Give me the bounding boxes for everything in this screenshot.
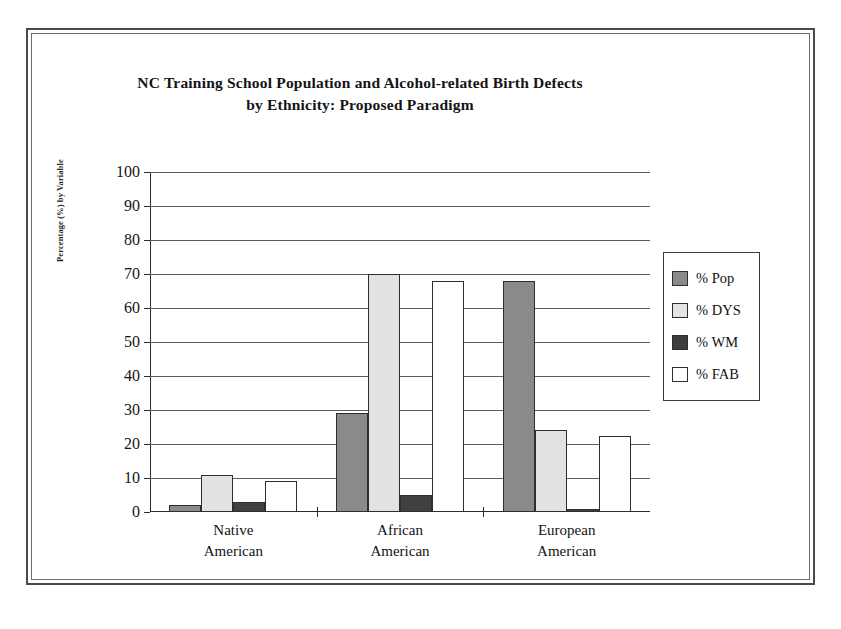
y-tick-label-100: 100 — [100, 163, 140, 181]
bar-dys-2 — [535, 430, 567, 512]
x-category-line1: Native — [213, 522, 253, 538]
y-axis-title: Percentage (%) by Variable — [55, 72, 65, 262]
y-tick-label-10: 10 — [100, 469, 140, 487]
category-separator-1 — [317, 507, 318, 517]
legend-item-fab[interactable]: % FAB — [672, 358, 752, 390]
legend-label-fab: % FAB — [696, 366, 739, 383]
bar-group-container — [150, 172, 650, 512]
bar-fab-0 — [265, 481, 297, 512]
legend-label-dys: % DYS — [696, 302, 741, 319]
legend-swatch-dys-icon — [672, 303, 688, 318]
bar-dys-0 — [201, 475, 233, 512]
bar-pop-0 — [169, 505, 201, 512]
legend-swatch-pop-icon — [672, 271, 688, 286]
legend-swatch-fab-icon — [672, 367, 688, 382]
y-tick-0 — [144, 512, 150, 513]
y-tick-label-30: 30 — [100, 401, 140, 419]
x-category-line1: African — [377, 522, 423, 538]
bar-wm-0 — [233, 502, 265, 512]
legend-item-dys[interactable]: % DYS — [672, 294, 752, 326]
x-category-line1: European — [538, 522, 595, 538]
legend-swatch-wm-icon — [672, 335, 688, 350]
bar-fab-1 — [432, 281, 464, 512]
y-tick-label-0: 0 — [100, 503, 140, 521]
x-category-label-2: EuropeanAmerican — [537, 520, 596, 562]
x-category-line2: American — [204, 541, 263, 562]
chart-page: NC Training School Population and Alcoho… — [0, 0, 841, 629]
legend-item-wm[interactable]: % WM — [672, 326, 752, 358]
y-tick-label-20: 20 — [100, 435, 140, 453]
x-category-line2: American — [537, 541, 596, 562]
bar-wm-1 — [400, 495, 432, 512]
bar-wm-2 — [567, 509, 599, 512]
bar-pop-2 — [503, 281, 535, 512]
bar-dys-1 — [368, 274, 400, 512]
chart-title: NC Training School Population and Alcoho… — [60, 72, 660, 116]
legend-item-pop[interactable]: % Pop — [672, 262, 752, 294]
x-category-line2: American — [370, 541, 429, 562]
chart-title-line2: by Ethnicity: Proposed Paradigm — [60, 94, 660, 116]
bar-fab-2 — [599, 436, 631, 513]
x-axis-category-labels: NativeAmericanAfricanAmericanEuropeanAme… — [150, 520, 650, 576]
y-tick-label-50: 50 — [100, 333, 140, 351]
y-tick-label-60: 60 — [100, 299, 140, 317]
plot-area: 0102030405060708090100 — [150, 172, 650, 512]
chart-title-line1: NC Training School Population and Alcoho… — [137, 74, 582, 91]
category-separator-2 — [483, 507, 484, 517]
legend-label-pop: % Pop — [696, 270, 734, 287]
y-tick-label-70: 70 — [100, 265, 140, 283]
y-tick-label-40: 40 — [100, 367, 140, 385]
bar-pop-1 — [336, 413, 368, 512]
legend-label-wm: % WM — [696, 334, 738, 351]
x-category-label-1: AfricanAmerican — [370, 520, 429, 562]
y-tick-label-80: 80 — [100, 231, 140, 249]
chart-legend: % Pop% DYS% WM% FAB — [663, 252, 760, 401]
x-category-label-0: NativeAmerican — [204, 520, 263, 562]
y-tick-label-90: 90 — [100, 197, 140, 215]
